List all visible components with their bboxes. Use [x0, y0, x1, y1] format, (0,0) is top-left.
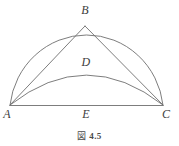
geometry-drawing: [0, 0, 179, 146]
vertex-label-c: C: [162, 108, 170, 120]
vertex-label-b: B: [81, 4, 89, 16]
segment-bc: [85, 26, 163, 105]
figure-container: B D A E C 図 4.5: [0, 0, 179, 146]
vertex-label-e: E: [82, 108, 90, 120]
caption-number: 4.5: [89, 131, 101, 141]
caption-prefix: 図: [77, 131, 86, 141]
semicircle-arc-ac: [10, 35, 163, 105]
vertex-label-d: D: [82, 56, 91, 68]
segment-ab: [10, 26, 85, 105]
vertex-label-a: A: [3, 108, 11, 120]
figure-caption: 図 4.5: [0, 129, 179, 142]
inner-arc-ad-c: [10, 75, 163, 105]
